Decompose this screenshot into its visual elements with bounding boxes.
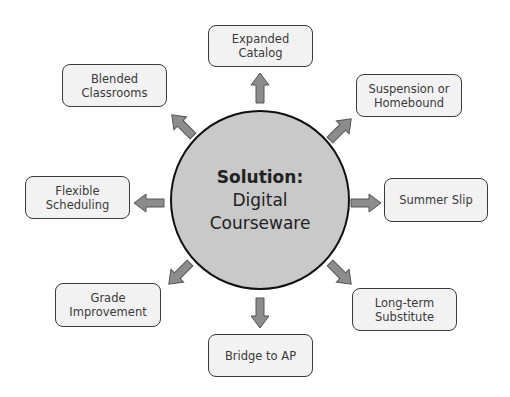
node-suspension-homebound: Suspension or Homebound <box>356 74 462 117</box>
node-blended-classrooms: Blended Classrooms <box>62 64 167 107</box>
arrow-left-icon <box>134 194 164 212</box>
arrow-down-right-icon <box>324 257 358 291</box>
arrow-up-icon <box>251 73 269 103</box>
center-line-2: Courseware <box>210 212 311 235</box>
node-summer-slip: Summer Slip <box>384 178 488 222</box>
node-bridge-to-ap: Bridge to AP <box>208 334 313 377</box>
arrow-right-icon <box>351 194 381 212</box>
center-line-1: Digital <box>232 189 287 212</box>
arrow-down-icon <box>251 298 269 328</box>
arrow-down-left-icon <box>162 257 196 291</box>
center-solution-circle: Solution: Digital Courseware <box>170 110 350 290</box>
node-expanded-catalog: Expanded Catalog <box>208 25 313 67</box>
node-flexible-scheduling: Flexible Scheduling <box>25 176 130 219</box>
node-long-term-substitute: Long-term Substitute <box>352 288 457 331</box>
node-grade-improvement: Grade Improvement <box>55 283 161 327</box>
center-title: Solution: <box>217 166 303 189</box>
